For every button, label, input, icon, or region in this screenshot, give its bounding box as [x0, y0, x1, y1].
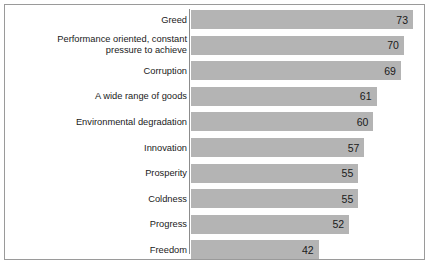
bar-category-label: Performance oriented, constant pressure … [9, 34, 187, 56]
bar-value-label: 55 [342, 167, 354, 179]
bar-fill [191, 240, 319, 259]
bar-value-label: 70 [387, 39, 399, 51]
bar-category-label: Innovation [9, 142, 187, 153]
bar-category-label: Coldness [9, 193, 187, 204]
bar-fill [191, 61, 401, 80]
bar-category-label: Progress [9, 219, 187, 230]
bar-fill [191, 36, 404, 55]
bar-chart-figure: Greed73Performance oriented, constant pr… [0, 0, 436, 274]
bar-fill [191, 138, 364, 157]
chart-frame-border: Greed73Performance oriented, constant pr… [4, 4, 425, 260]
bar-row: Coldness55 [5, 189, 426, 208]
bar-value-label: 73 [396, 14, 408, 26]
bar-row: Freedom42 [5, 240, 426, 259]
bar-track: 70 [191, 36, 404, 55]
bar-fill [191, 112, 373, 131]
bar-value-label: 60 [357, 116, 369, 128]
bar-category-label: Corruption [9, 65, 187, 76]
bar-track: 61 [191, 87, 377, 106]
bar-track: 55 [191, 164, 358, 183]
bar-value-label: 42 [302, 244, 314, 256]
bar-track: 55 [191, 189, 358, 208]
bar-value-label: 52 [332, 218, 344, 230]
bar-row: Corruption69 [5, 61, 426, 80]
bar-track: 42 [191, 240, 319, 259]
plot-area: Greed73Performance oriented, constant pr… [5, 5, 426, 261]
bar-track: 60 [191, 112, 373, 131]
bar-row: A wide range of goods61 [5, 87, 426, 106]
bar-value-label: 61 [360, 90, 372, 102]
bar-row: Innovation57 [5, 138, 426, 157]
bar-value-label: 57 [348, 142, 360, 154]
bar-row: Greed73 [5, 10, 426, 29]
bar-track: 52 [191, 215, 349, 234]
bar-row: Prosperity55 [5, 164, 426, 183]
bar-category-label: Greed [9, 14, 187, 25]
bar-row: Environmental degradation60 [5, 112, 426, 131]
bar-category-label: Prosperity [9, 168, 187, 179]
bar-row: Progress52 [5, 215, 426, 234]
bar-track: 69 [191, 61, 401, 80]
bar-track: 57 [191, 138, 364, 157]
bar-value-label: 69 [384, 65, 396, 77]
bar-fill [191, 215, 349, 234]
bar-fill [191, 10, 413, 29]
bar-value-label: 55 [342, 193, 354, 205]
bar-category-label: A wide range of goods [9, 91, 187, 102]
bar-fill [191, 164, 358, 183]
bar-category-label: Environmental degradation [9, 116, 187, 127]
bar-row: Performance oriented, constant pressure … [5, 36, 426, 55]
bar-fill [191, 87, 377, 106]
bar-track: 73 [191, 10, 413, 29]
bar-fill [191, 189, 358, 208]
bar-category-label: Freedom [9, 244, 187, 255]
